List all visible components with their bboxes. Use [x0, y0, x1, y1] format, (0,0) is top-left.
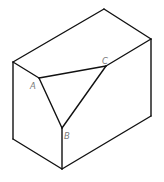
label-B: B — [64, 131, 70, 141]
edge-bottom-left — [13, 139, 62, 169]
edge-BC — [62, 66, 106, 128]
cuboid-diagram: A B C — [0, 0, 164, 182]
label-C: C — [102, 56, 108, 66]
edge-top-left — [13, 9, 104, 62]
label-A: A — [29, 81, 36, 91]
edge-top-front-right — [106, 39, 151, 66]
edge-top-front-left — [13, 62, 39, 78]
triangle-section-abc — [39, 66, 106, 128]
edge-top-right — [104, 9, 151, 39]
edge-bottom-right — [62, 116, 151, 169]
edge-AC — [39, 66, 106, 78]
edge-AB — [39, 78, 62, 128]
